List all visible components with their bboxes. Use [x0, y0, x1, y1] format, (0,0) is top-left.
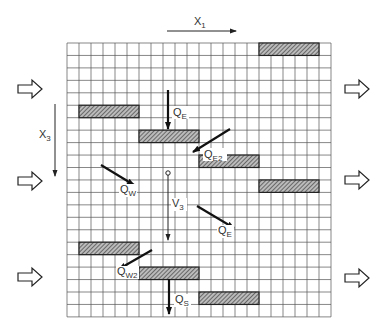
- hatched-block: [259, 43, 319, 55]
- outlet-arrow-icon: [345, 80, 369, 287]
- hatched-block: [139, 130, 199, 142]
- inlet-arrow-icon: [18, 80, 42, 286]
- hatched-block: [139, 267, 199, 279]
- x3-label: X3: [39, 128, 51, 143]
- hatched-block: [259, 180, 319, 192]
- qw-arrow: [101, 165, 134, 185]
- hatched-block: [79, 242, 139, 254]
- diagram-canvas: X1 X3 QE QE2 QW V3: [0, 0, 384, 333]
- hatched-block: [79, 105, 139, 117]
- x1-label: X1: [194, 15, 206, 30]
- hatched-block: [199, 292, 259, 304]
